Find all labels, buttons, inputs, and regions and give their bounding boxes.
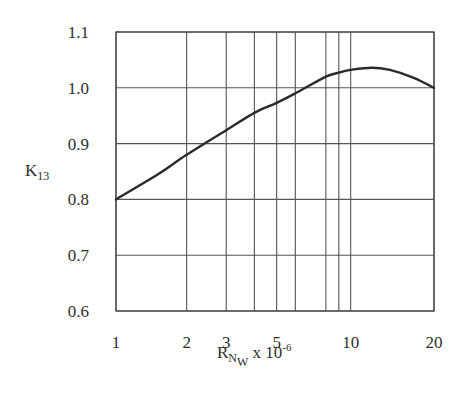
y-axis-tick-labels: 1.11.00.90.80.70.6 bbox=[68, 23, 90, 321]
y-tick-label: 0.9 bbox=[68, 135, 89, 154]
y-tick-label: 0.7 bbox=[68, 246, 90, 265]
k13-vs-rnw-chart: 1.11.00.90.80.70.6 12351020 K13 RNW x 10… bbox=[0, 0, 462, 410]
x-tick-label: 20 bbox=[426, 333, 443, 352]
y-tick-label: 1.1 bbox=[68, 23, 89, 42]
x-tick-label: 10 bbox=[342, 333, 359, 352]
x-tick-label: 1 bbox=[112, 333, 121, 352]
y-tick-label: 0.6 bbox=[68, 302, 89, 321]
x-axis-title: RNW x 10-6 bbox=[217, 341, 292, 369]
y-axis-title: K13 bbox=[25, 161, 49, 183]
y-tick-label: 1.0 bbox=[68, 79, 89, 98]
x-tick-label: 2 bbox=[182, 333, 191, 352]
y-tick-label: 0.8 bbox=[68, 190, 89, 209]
